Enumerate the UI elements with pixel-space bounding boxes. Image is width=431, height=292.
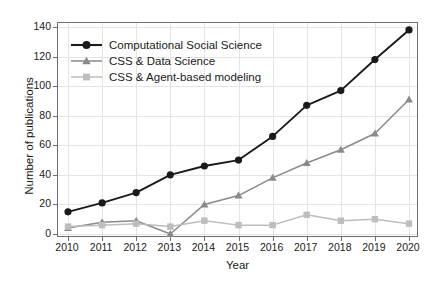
- circle-marker: [167, 171, 174, 178]
- circle-marker: [303, 102, 310, 109]
- legend-item[interactable]: CSS & Agent-based modeling: [70, 69, 262, 85]
- chart-legend: Computational Social ScienceCSS & Data S…: [70, 37, 262, 85]
- x-axis-tick-label: 2012: [124, 241, 147, 253]
- legend-item[interactable]: CSS & Data Science: [70, 53, 262, 69]
- square-marker: [65, 223, 71, 229]
- x-axis-tick-label: 2015: [226, 241, 249, 253]
- x-axis-tick-label: 2011: [90, 241, 113, 253]
- square-marker: [201, 217, 207, 223]
- legend-item[interactable]: Computational Social Science: [70, 37, 262, 53]
- y-axis-tick-label: 140: [7, 20, 51, 32]
- circle-marker: [64, 208, 71, 215]
- x-axis-tick-label: 2016: [260, 241, 283, 253]
- x-axis-tick-label: 2013: [158, 241, 181, 253]
- x-axis-tick-label: 2018: [328, 241, 351, 253]
- series-3: [65, 212, 412, 230]
- series-2: [64, 95, 413, 237]
- circle-marker: [99, 199, 106, 206]
- plot-area: Computational Social ScienceCSS & Data S…: [57, 22, 418, 237]
- circle-marker: [269, 133, 276, 140]
- publications-line-chart: 020406080100120140 Number of publication…: [0, 0, 431, 292]
- square-marker: [338, 217, 344, 223]
- series-line: [68, 99, 409, 234]
- square-marker: [406, 220, 412, 226]
- square-marker: [304, 212, 310, 218]
- legend-circle-marker: [70, 38, 103, 52]
- circle-marker: [337, 87, 344, 94]
- y-axis-title: Number of publications: [23, 41, 35, 231]
- circle-marker: [83, 41, 91, 49]
- x-axis-tick-label: 2020: [396, 241, 419, 253]
- legend-label: CSS & Data Science: [109, 54, 215, 68]
- triangle-marker: [235, 192, 243, 199]
- triangle-marker: [405, 95, 413, 102]
- x-axis-tick-label: 2010: [55, 241, 78, 253]
- x-axis-tick-label: 2017: [294, 241, 317, 253]
- x-axis-title: Year: [57, 259, 418, 271]
- circle-marker: [371, 56, 378, 63]
- triangle-marker: [337, 146, 345, 153]
- circle-marker: [405, 26, 412, 33]
- square-marker: [133, 220, 139, 226]
- circle-marker: [235, 156, 242, 163]
- square-marker: [372, 216, 378, 222]
- x-axis-tick-label: 2019: [362, 241, 385, 253]
- square-marker: [235, 222, 241, 228]
- square-marker: [83, 74, 90, 81]
- square-marker: [167, 223, 173, 229]
- square-marker: [269, 222, 275, 228]
- legend-label: CSS & Agent-based modeling: [109, 70, 261, 84]
- legend-square-marker: [70, 70, 103, 84]
- x-axis-tick-label: 2014: [192, 241, 215, 253]
- legend-triangle-marker: [70, 54, 103, 68]
- circle-marker: [201, 162, 208, 169]
- x-axis-tick-labels: 2010201120122013201420152016201720182019…: [57, 241, 418, 257]
- legend-label: Computational Social Science: [109, 38, 262, 52]
- circle-marker: [133, 189, 140, 196]
- square-marker: [99, 222, 105, 228]
